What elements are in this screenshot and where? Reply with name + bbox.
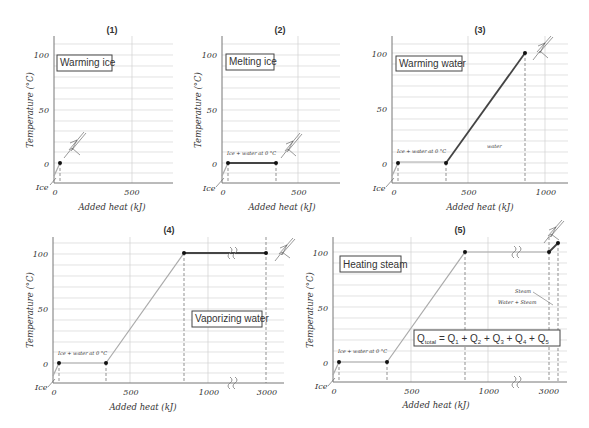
- svg-text:500: 500: [124, 188, 139, 197]
- panel-4: (4) 100 50 0 0 500 1000 3000 Added heat …: [25, 225, 295, 412]
- svg-text:Ice: Ice: [372, 184, 386, 193]
- svg-text:0: 0: [44, 160, 49, 169]
- svg-text:50: 50: [39, 106, 49, 115]
- svg-text:100: 100: [313, 249, 328, 258]
- svg-text:0: 0: [51, 388, 56, 397]
- svg-text:100: 100: [34, 51, 49, 60]
- svg-text:Added heat (kJ): Added heat (kJ): [77, 202, 145, 212]
- svg-text:Added heat (kJ): Added heat (kJ): [445, 202, 513, 212]
- pencil-hand-icon: [64, 132, 86, 158]
- svg-text:50: 50: [38, 305, 48, 314]
- svg-text:Temperature (°C): Temperature (°C): [305, 272, 315, 348]
- panel-title: (1): [107, 25, 118, 35]
- pencil-hand-icon: [533, 36, 553, 60]
- svg-text:Ice + water at 0 °C: Ice + water at 0 °C: [226, 150, 276, 156]
- svg-text:500: 500: [291, 188, 306, 197]
- svg-text:1000: 1000: [199, 388, 219, 397]
- formula: Qtotal = Q1 + Q2 + Q3 + Q4 + Q5: [417, 333, 549, 345]
- svg-text:Temperature (°C): Temperature (°C): [193, 72, 203, 148]
- svg-text:Steam: Steam: [515, 288, 531, 294]
- svg-text:100: 100: [202, 51, 217, 60]
- panel-5: (5) 100 50 0 0 500 1000 3000 Added heat …: [305, 220, 567, 410]
- svg-text:Ice: Ice: [35, 183, 49, 192]
- svg-text:3000: 3000: [539, 387, 559, 396]
- svg-text:(2): (2): [275, 25, 286, 35]
- svg-text:Added heat (kJ): Added heat (kJ): [247, 202, 315, 212]
- svg-text:Ice + water at 0 °C: Ice + water at 0 °C: [337, 348, 387, 354]
- svg-text:0: 0: [391, 188, 396, 197]
- svg-text:Water + Steam: Water + Steam: [498, 299, 537, 305]
- svg-text:500: 500: [404, 387, 419, 396]
- svg-text:Temperature (°C): Temperature (°C): [25, 272, 35, 348]
- svg-text:0: 0: [331, 387, 336, 396]
- svg-text:50: 50: [207, 106, 217, 115]
- svg-text:Vaporizing water: Vaporizing water: [195, 313, 269, 324]
- svg-text:0: 0: [220, 188, 225, 197]
- svg-text:Temperature (°C): Temperature (°C): [25, 72, 35, 148]
- panel-2: (2) 100 50 0 0 500 Added heat (kJ) Tempe…: [193, 25, 340, 212]
- svg-text:water: water: [487, 143, 502, 149]
- svg-text:Ice: Ice: [314, 382, 328, 391]
- svg-text:Heating steam: Heating steam: [343, 259, 407, 270]
- svg-text:1000: 1000: [536, 188, 556, 197]
- svg-text:Added heat (kJ): Added heat (kJ): [401, 400, 469, 410]
- svg-text:Ice + water at 0 °C: Ice + water at 0 °C: [57, 350, 107, 356]
- svg-text:0: 0: [52, 188, 57, 197]
- svg-text:100: 100: [33, 250, 48, 259]
- svg-text:3000: 3000: [257, 388, 277, 397]
- svg-text:500: 500: [123, 388, 138, 397]
- heating-curve-diagram: (1) 100 50 0 0 500 Added heat (kJ) Tempe…: [0, 0, 589, 428]
- svg-text:Ice: Ice: [202, 184, 216, 193]
- svg-text:500: 500: [461, 188, 476, 197]
- panel-1: (1) 100 50 0 0 500 Added heat (kJ) Tempe…: [25, 25, 173, 212]
- svg-text:Ice + water at 0 °C: Ice + water at 0 °C: [396, 148, 446, 154]
- svg-text:0: 0: [212, 160, 217, 169]
- svg-text:50: 50: [377, 105, 387, 114]
- svg-text:0: 0: [323, 359, 328, 368]
- svg-text:1000: 1000: [479, 387, 499, 396]
- pencil-hand-icon: [544, 220, 564, 243]
- svg-text:(3): (3): [475, 25, 486, 35]
- panel-3: (3) 100 50 0 0 500 1000 Added heat (kJ) …: [372, 25, 568, 212]
- svg-text:Warming water: Warming water: [399, 58, 467, 69]
- svg-text:Warming ice: Warming ice: [60, 57, 116, 68]
- pencil-hand-icon: [281, 133, 302, 158]
- svg-text:0: 0: [43, 360, 48, 369]
- svg-text:100: 100: [372, 50, 387, 59]
- svg-text:(5): (5): [455, 225, 466, 235]
- svg-text:Melting ice: Melting ice: [229, 56, 277, 67]
- svg-text:0: 0: [382, 160, 387, 169]
- axis-break-icon: [512, 246, 521, 388]
- svg-text:50: 50: [318, 304, 328, 313]
- svg-text:(4): (4): [164, 225, 175, 235]
- pencil-hand-icon: [275, 238, 295, 261]
- svg-text:Ice: Ice: [34, 383, 48, 392]
- svg-text:Added heat (kJ): Added heat (kJ): [108, 402, 176, 412]
